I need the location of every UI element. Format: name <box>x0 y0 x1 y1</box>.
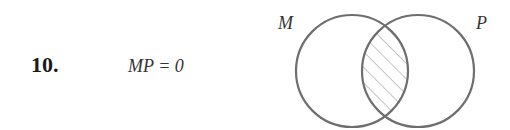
venn-diagram <box>0 0 510 130</box>
